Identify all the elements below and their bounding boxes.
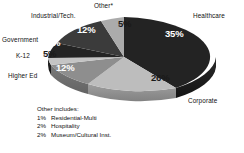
label-k12: K-12 <box>16 52 30 59</box>
label-healthcare: Healthcare <box>193 12 225 19</box>
footnote-item: 2% Hospitality <box>37 122 111 130</box>
footnote-percent: 2% <box>37 122 47 130</box>
footnote-item: 2% Museum/Cultural Inst. <box>37 131 111 139</box>
footnote-percent: 1% <box>37 114 47 122</box>
label-other: Other* <box>94 2 113 9</box>
value-industrial-tech: 12% <box>77 24 95 35</box>
value-healthcare: 35% <box>165 28 183 39</box>
footnote-title: Other includes: <box>37 105 111 113</box>
footnote-item: 1% Residential-Multi <box>37 114 111 122</box>
footnote-name: Hospitality <box>51 122 80 130</box>
value-higher-ed: 12% <box>56 62 74 73</box>
value-k12: 5% <box>43 48 56 59</box>
label-corporate: Corporate <box>188 97 217 104</box>
footnote-name: Residential-Multi <box>51 114 97 122</box>
pie-chart: Other* Industrial/Tech. Government K-12 … <box>0 0 244 153</box>
value-other: 5% <box>118 18 131 29</box>
footnote-percent: 2% <box>37 131 47 139</box>
value-government: 5% <box>47 37 60 48</box>
label-higher-ed: Higher Ed <box>8 72 37 79</box>
footnote-name: Museum/Cultural Inst. <box>51 131 111 139</box>
label-government: Government <box>2 36 38 43</box>
value-corporate: 26% <box>151 72 169 83</box>
footnote-block: Other includes: 1% Residential-Multi 2% … <box>37 105 111 139</box>
label-industrial-tech: Industrial/Tech. <box>31 12 76 19</box>
